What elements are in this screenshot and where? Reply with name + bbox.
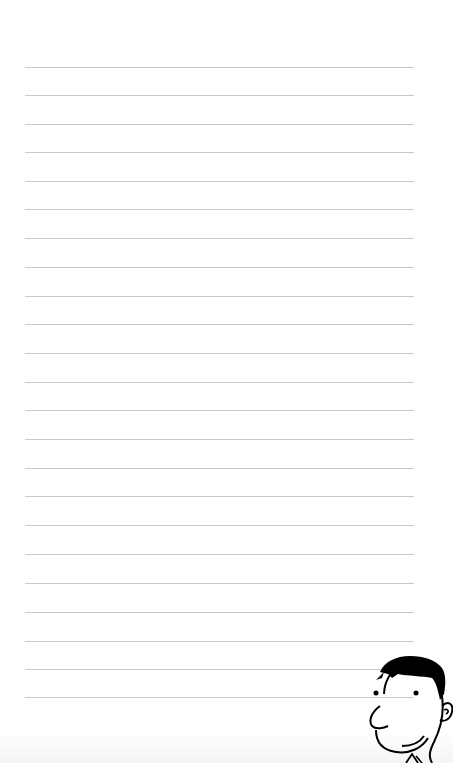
ruled-line [25, 296, 414, 297]
ruled-line [25, 554, 414, 555]
ruled-line [25, 267, 414, 268]
ruled-line [25, 612, 414, 613]
ruled-line [25, 697, 414, 698]
ruled-line [25, 439, 414, 440]
ruled-line [25, 324, 414, 325]
ruled-line [25, 669, 414, 670]
ruled-line [25, 124, 414, 125]
ruled-line [25, 525, 414, 526]
ruled-line [25, 152, 414, 153]
ruled-line [25, 382, 414, 383]
ruled-line [25, 583, 414, 584]
ruled-line [25, 641, 414, 642]
ruled-line [25, 67, 414, 68]
notebook-page [0, 0, 453, 763]
cartoon-man-face-icon [362, 650, 453, 763]
ruled-line [25, 209, 414, 210]
ruled-line [25, 238, 414, 239]
ruled-line [25, 95, 414, 96]
ruled-line [25, 468, 414, 469]
ruled-line [25, 181, 414, 182]
ruled-line [25, 496, 414, 497]
ruled-line [25, 410, 414, 411]
ruled-line [25, 353, 414, 354]
